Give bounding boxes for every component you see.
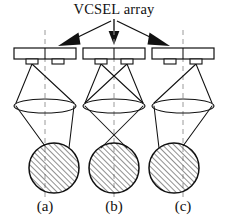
emitter-right-b xyxy=(121,59,133,64)
panel-c: (c) xyxy=(149,30,214,215)
figure-title: VCSEL array xyxy=(74,1,156,17)
emitter-right-c xyxy=(190,59,202,64)
panel-a: (a) xyxy=(14,30,79,215)
emitter-left-c xyxy=(164,59,176,64)
vcsel-array-diagram: VCSEL array xyxy=(0,0,228,219)
arrow-to-panel-c xyxy=(117,21,170,46)
arrow-to-panel-a xyxy=(58,21,111,46)
emitter-left-a xyxy=(26,59,38,64)
emitter-right-a xyxy=(52,59,64,64)
emitter-left-b xyxy=(95,59,107,64)
panel-label-a: (a) xyxy=(37,198,54,215)
panel-b: (b) xyxy=(83,30,145,215)
panel-label-c: (c) xyxy=(175,198,192,215)
figure-root: VCSEL array xyxy=(0,0,228,219)
panel-label-b: (b) xyxy=(105,198,123,215)
